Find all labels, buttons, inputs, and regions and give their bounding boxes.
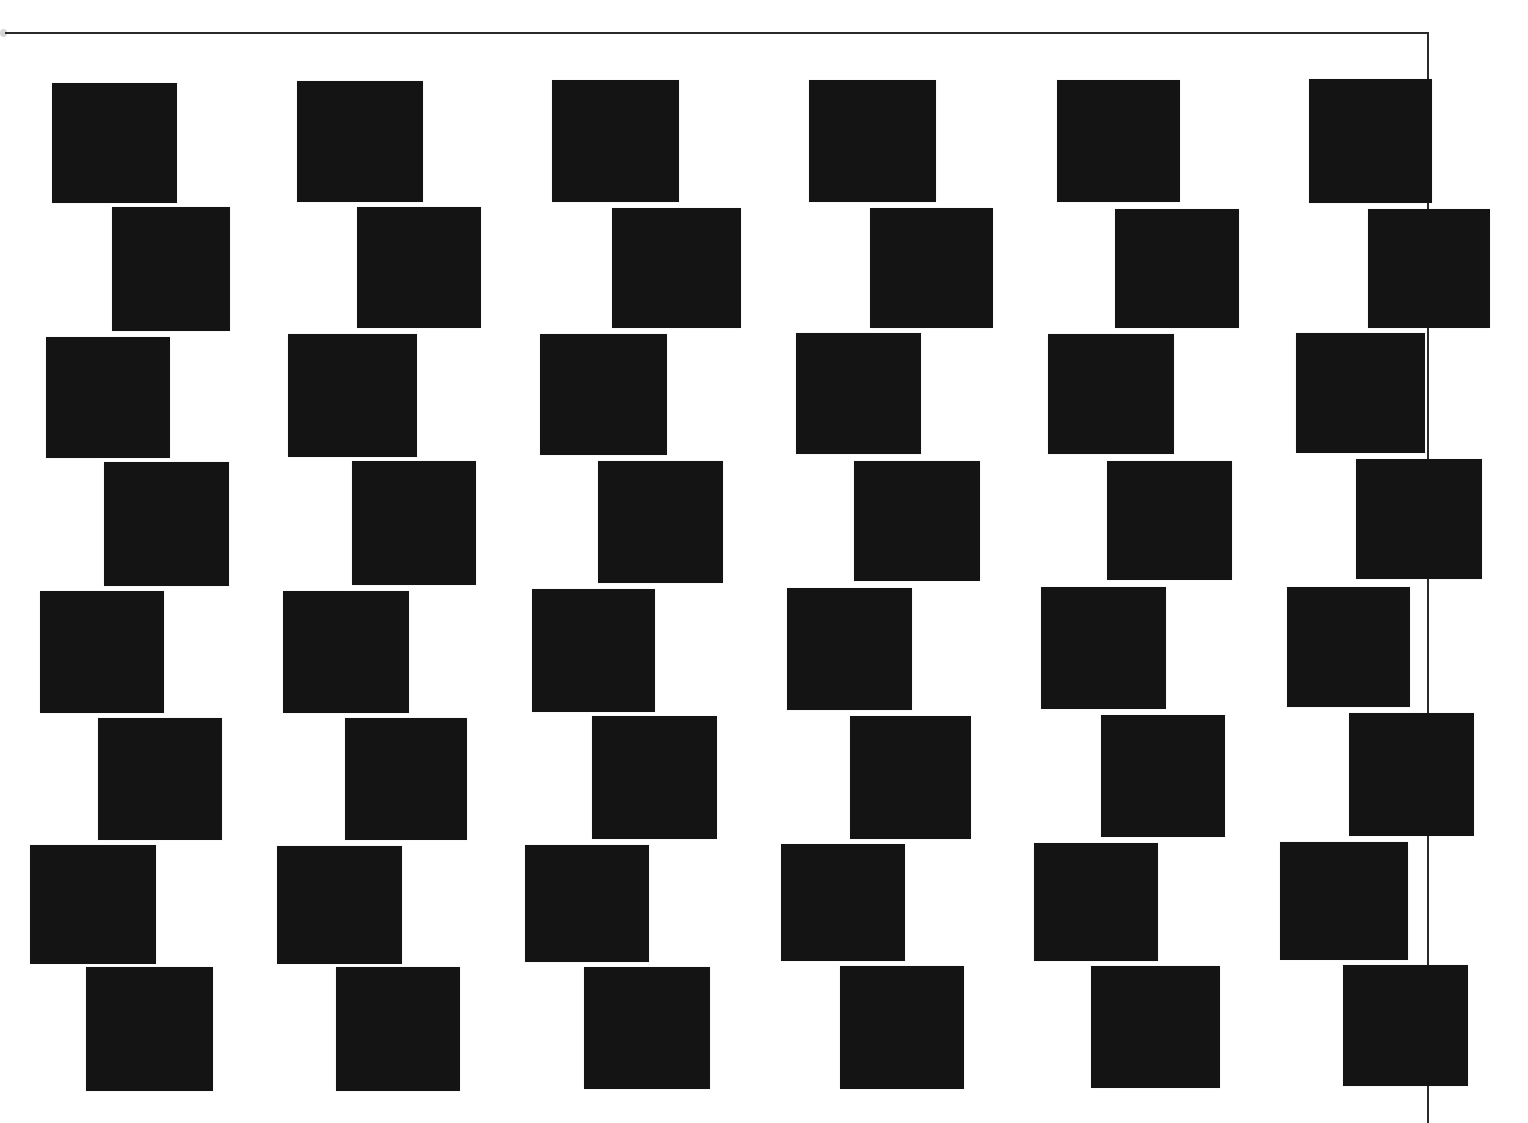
black-square-r1-c6 [1309, 79, 1432, 203]
black-square-r2-c1 [112, 207, 230, 331]
frame-top-line [5, 32, 1429, 34]
black-square-r2-c5 [1115, 209, 1239, 328]
black-square-r2-c6 [1368, 209, 1490, 328]
black-square-r6-c4 [850, 716, 971, 839]
black-square-r4-c2 [352, 461, 476, 585]
black-square-r3-c4 [796, 333, 921, 454]
black-square-r7-c4 [781, 844, 905, 961]
black-square-r2-c3 [612, 208, 741, 328]
black-square-r5-c6 [1287, 587, 1410, 707]
black-square-r1-c1 [52, 83, 177, 203]
black-square-r6-c3 [592, 716, 717, 839]
black-square-r7-c3 [525, 845, 649, 962]
black-square-r1-c5 [1057, 80, 1180, 202]
black-square-r6-c6 [1349, 713, 1474, 836]
black-square-r7-c2 [277, 846, 402, 964]
black-square-r6-c2 [345, 718, 467, 840]
black-square-r3-c3 [540, 334, 667, 455]
black-square-r4-c3 [598, 461, 723, 583]
black-square-r7-c6 [1280, 842, 1408, 960]
black-square-r7-c1 [30, 845, 156, 964]
black-square-r5-c4 [787, 588, 912, 710]
black-square-r5-c2 [283, 591, 409, 713]
black-square-r8-c4 [840, 966, 964, 1089]
black-square-r4-c4 [854, 461, 980, 581]
black-square-r1-c4 [809, 80, 936, 202]
composition-canvas [0, 0, 1528, 1123]
black-square-r3-c1 [46, 337, 170, 458]
black-square-r8-c2 [336, 967, 460, 1091]
black-square-r3-c5 [1048, 334, 1174, 454]
black-square-r8-c6 [1343, 965, 1468, 1086]
black-square-r3-c6 [1296, 333, 1425, 453]
black-square-r4-c5 [1107, 461, 1232, 580]
black-square-r8-c5 [1091, 966, 1220, 1088]
black-square-r5-c1 [40, 591, 164, 713]
black-square-r2-c2 [357, 207, 481, 328]
black-square-r4-c1 [104, 462, 229, 586]
black-square-r1-c2 [297, 81, 423, 202]
black-square-r6-c5 [1101, 715, 1225, 837]
black-square-r3-c2 [288, 334, 417, 457]
black-square-r8-c1 [86, 967, 213, 1091]
black-square-r2-c4 [870, 208, 993, 328]
black-square-r7-c5 [1034, 843, 1158, 961]
black-square-r6-c1 [98, 718, 222, 840]
black-square-r1-c3 [552, 80, 679, 202]
black-square-r8-c3 [584, 967, 710, 1089]
black-square-r4-c6 [1356, 459, 1482, 579]
black-square-r5-c5 [1041, 587, 1166, 709]
black-square-r5-c3 [532, 589, 655, 712]
